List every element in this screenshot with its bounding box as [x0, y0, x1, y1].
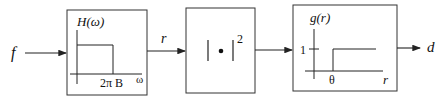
omega-axis-label: ω [136, 73, 143, 85]
block-diagram: f H(ω) 2π B ω r 2 g(r) 1 θ r d [0, 0, 448, 101]
magnitude-squared-block [186, 8, 255, 93]
threshold-block [293, 5, 397, 91]
y-tick-label: 1 [300, 43, 306, 57]
output-label-d: d [427, 39, 435, 55]
rect-response-curve [77, 45, 113, 74]
exponent-label: 2 [237, 32, 243, 46]
r-axis-label: r [383, 72, 389, 87]
theta-label: θ [329, 73, 335, 87]
cutoff-label: 2π B [100, 76, 123, 90]
h-omega-label: H(ω) [76, 14, 104, 29]
signal-label-r: r [161, 31, 167, 46]
dot-placeholder-icon [219, 49, 224, 54]
g-r-label: g(r) [310, 10, 330, 25]
step-function-curve [333, 49, 376, 71]
input-label-f: f [11, 44, 18, 62]
